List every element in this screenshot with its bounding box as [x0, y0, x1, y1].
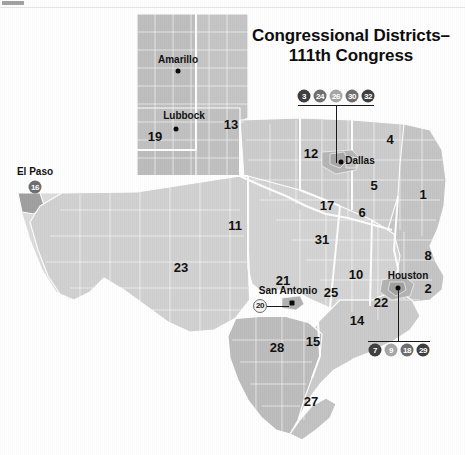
district-label-4: 4 — [386, 133, 393, 146]
city-dot-lubbock — [174, 127, 179, 132]
san-antonio-callout-rule — [267, 306, 289, 307]
district-label-19: 19 — [148, 130, 162, 143]
district-label-1: 1 — [419, 188, 426, 201]
map-title-line2: 111th Congress — [240, 46, 462, 66]
houston-callout-stem — [398, 289, 399, 341]
city-label-dallas: Dallas — [345, 156, 374, 166]
map-title: Congressional Districts– 111th Congress — [240, 26, 462, 66]
district-label-13: 13 — [224, 118, 238, 131]
city-dot-amarillo — [176, 69, 181, 74]
dallas-callout-stem — [336, 105, 337, 163]
district-label-17: 17 — [320, 199, 334, 212]
city-label-el-paso: El Paso — [17, 166, 53, 177]
dallas-callout-badge-32[interactable]: 32 — [362, 90, 375, 103]
district-label-14: 14 — [350, 314, 364, 327]
houston-callout-badge-7[interactable]: 7 — [369, 344, 382, 357]
district-label-15: 15 — [306, 335, 320, 348]
district-label-22: 22 — [374, 296, 388, 309]
dallas-callout-badge-3[interactable]: 3 — [298, 90, 311, 103]
dallas-callout-badge-24[interactable]: 24 — [314, 90, 327, 103]
district-label-31: 31 — [315, 233, 329, 246]
district-label-6: 6 — [358, 206, 365, 219]
district-label-25: 25 — [324, 286, 338, 299]
houston-callout-badge-18[interactable]: 18 — [401, 344, 414, 357]
city-label-lubbock: Lubbock — [163, 111, 205, 121]
city-dot-dallas — [339, 160, 344, 165]
city-label-san-antonio: San Antonio — [259, 286, 318, 296]
district-label-12: 12 — [304, 147, 318, 160]
district-label-2: 2 — [424, 282, 431, 295]
san-antonio-callout-badge-20[interactable]: 20 — [253, 299, 267, 313]
dallas-callout-badge-26[interactable]: 26 — [330, 90, 343, 103]
city-label-amarillo: Amarillo — [158, 55, 198, 65]
district-label-23: 23 — [174, 261, 188, 274]
city-dot-san-antonio — [290, 301, 295, 306]
dallas-callout-badge-30[interactable]: 30 — [346, 90, 359, 103]
district-label-10: 10 — [349, 268, 363, 281]
district-label-11: 11 — [228, 219, 242, 232]
map-title-line1: Congressional Districts– — [252, 26, 450, 45]
district-label-8: 8 — [424, 249, 431, 262]
map-figure: Congressional Districts– 111th Congress … — [0, 0, 465, 455]
district-label-5: 5 — [370, 179, 377, 192]
houston-callout-badge-29[interactable]: 29 — [417, 344, 430, 357]
el-paso-callout-badge-16[interactable]: 16 — [29, 181, 42, 194]
district-label-27: 27 — [304, 395, 318, 408]
houston-callout-badge-9[interactable]: 9 — [385, 344, 398, 357]
city-label-houston: Houston — [388, 271, 429, 281]
district-label-28: 28 — [270, 341, 284, 354]
houston-callout-rule — [368, 341, 430, 342]
